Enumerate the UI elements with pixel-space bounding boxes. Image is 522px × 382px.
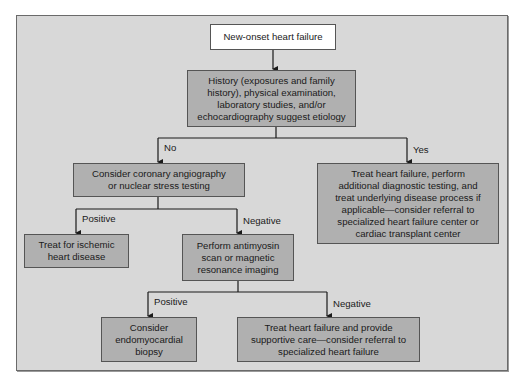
node-history-etiology: History (exposures and family history), … (187, 70, 356, 127)
node-ischemic-heart-disease: Treat for ischemic heart disease (24, 234, 129, 268)
edge-label-positive-2: Positive (154, 296, 188, 307)
node-endomyocardial-biopsy: Consider endomyocardial biopsy (101, 317, 197, 362)
edge-label-yes: Yes (413, 144, 429, 155)
node-treat-heart-failure-referral: Treat heart failure, perform additional … (317, 163, 499, 244)
node-coronary-angiography: Consider coronary angiography or nuclear… (73, 163, 245, 197)
edge-label-positive-1: Positive (82, 213, 116, 224)
node-supportive-care: Treat heart failure and provide supporti… (237, 317, 420, 362)
edge-label-no: No (164, 142, 176, 153)
edge-label-negative-2: Negative (333, 298, 371, 309)
edge-label-negative-1: Negative (243, 215, 281, 226)
node-antimyosin-mri: Perform antimyosin scan or magnetic reso… (182, 234, 294, 281)
node-new-onset-heart-failure: New-onset heart failure (210, 24, 336, 50)
